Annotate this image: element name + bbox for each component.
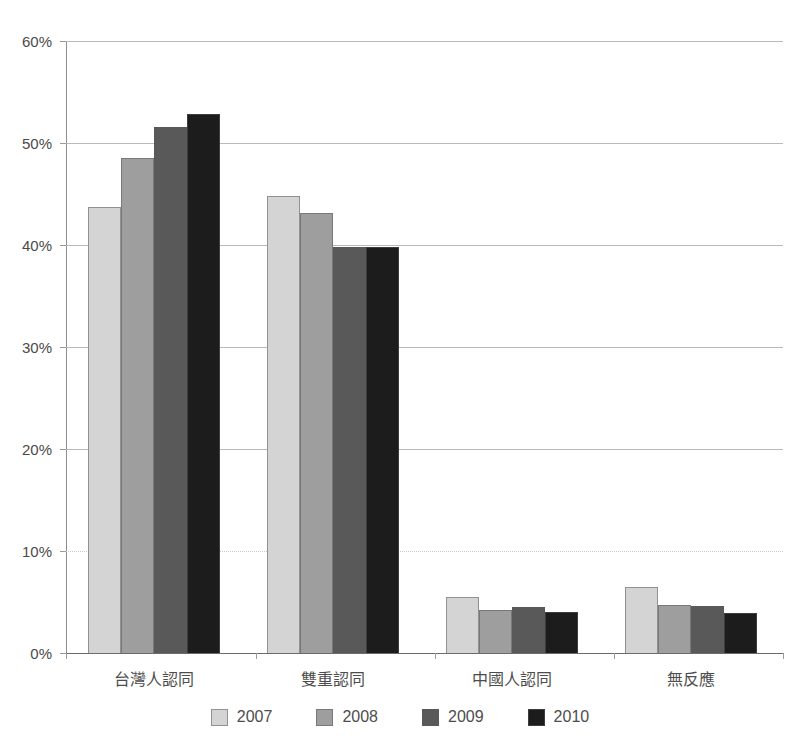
y-axis-label: 50% — [0, 135, 52, 152]
bar-2010-4 — [724, 613, 757, 653]
legend-item-2009: 2009 — [422, 708, 484, 726]
legend-item-2007: 2007 — [211, 708, 273, 726]
x-tick-mark — [614, 653, 615, 659]
bar-2009-3 — [512, 607, 545, 653]
x-axis-category-label: 中國人認同 — [472, 666, 552, 690]
bar-2009-2 — [333, 247, 366, 653]
bar-2007-4 — [625, 587, 658, 653]
legend-label: 2008 — [342, 708, 378, 726]
bar-2009-1 — [154, 127, 187, 653]
bar-2007-2 — [267, 196, 300, 653]
legend-item-2010: 2010 — [528, 708, 590, 726]
y-axis-label: 20% — [0, 441, 52, 458]
bar-2008-3 — [479, 610, 512, 653]
bar-2009-4 — [691, 606, 724, 653]
gridline-60% — [66, 41, 783, 42]
legend-label: 2010 — [554, 708, 590, 726]
x-axis-line — [66, 653, 784, 654]
legend-swatch-icon — [316, 709, 333, 726]
legend-label: 2007 — [237, 708, 273, 726]
x-axis-category-label: 無反應 — [667, 666, 715, 690]
y-axis-label: 10% — [0, 543, 52, 560]
x-tick-mark — [66, 653, 67, 659]
bar-2010-2 — [366, 247, 399, 653]
y-axis-label: 30% — [0, 339, 52, 356]
legend-swatch-icon — [422, 709, 439, 726]
bar-2007-3 — [446, 597, 479, 653]
x-axis-category-label: 台灣人認同 — [114, 666, 194, 690]
bar-2010-1 — [187, 114, 220, 653]
bar-2007-1 — [88, 207, 121, 653]
x-axis-category-label: 雙重認同 — [301, 666, 365, 690]
bar-2008-1 — [121, 158, 154, 653]
legend-item-2008: 2008 — [316, 708, 378, 726]
y-axis-label: 40% — [0, 237, 52, 254]
bar-2008-4 — [658, 605, 691, 653]
x-tick-mark — [435, 653, 436, 659]
x-tick-mark — [256, 653, 257, 659]
x-tick-mark — [783, 653, 784, 659]
legend-label: 2009 — [448, 708, 484, 726]
y-axis-label: 0% — [0, 645, 52, 662]
chart-page: 0%10%20%30%40%50%60% 台灣人認同雙重認同中國人認同無反應 2… — [0, 0, 800, 755]
legend-swatch-icon — [211, 709, 228, 726]
grouped-bar-chart: 0%10%20%30%40%50%60% 台灣人認同雙重認同中國人認同無反應 2… — [0, 0, 800, 755]
plot-area — [66, 41, 783, 653]
bar-2008-2 — [300, 213, 333, 653]
y-axis-label: 60% — [0, 33, 52, 50]
chart-legend: 2007200820092010 — [0, 708, 800, 726]
bar-2010-3 — [545, 612, 578, 653]
legend-swatch-icon — [528, 709, 545, 726]
